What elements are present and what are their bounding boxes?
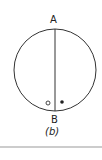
label-b: B xyxy=(51,115,58,125)
filled-dot-marker xyxy=(60,100,64,104)
label-a: A xyxy=(50,15,57,25)
open-circle-marker xyxy=(46,101,50,105)
caption: (b) xyxy=(45,127,59,137)
